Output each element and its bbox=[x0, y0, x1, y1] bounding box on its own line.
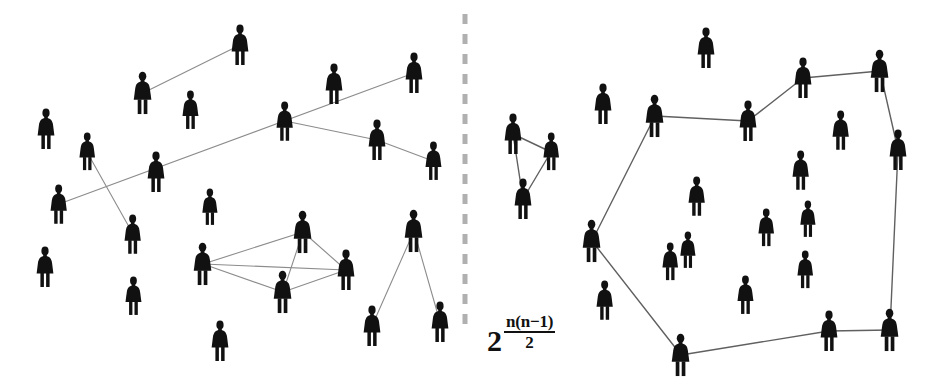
person-icon bbox=[594, 280, 615, 321]
formula-two-to-the-n-choose-two: 2 n(n−1) 2 bbox=[487, 313, 555, 351]
person-icon bbox=[792, 57, 814, 99]
person-icon bbox=[77, 132, 97, 171]
person-icon bbox=[361, 305, 383, 347]
person-icon bbox=[541, 132, 561, 171]
person-icon bbox=[512, 178, 534, 220]
person-icon bbox=[200, 188, 220, 226]
person-icon bbox=[868, 49, 891, 93]
person-icon bbox=[48, 184, 69, 225]
person-icon bbox=[145, 151, 167, 193]
formula-base: 2 bbox=[487, 326, 502, 356]
connection-edge bbox=[59, 73, 414, 204]
formula-denominator: 2 bbox=[523, 333, 536, 351]
person-icon bbox=[756, 208, 776, 247]
person-icon bbox=[592, 83, 614, 125]
person-icon bbox=[271, 270, 294, 314]
formula-fraction: n(n−1) 2 bbox=[504, 313, 555, 351]
person-icon bbox=[790, 150, 811, 191]
connection-edge bbox=[285, 121, 377, 140]
person-icon bbox=[678, 231, 698, 269]
left-panel-edges bbox=[59, 45, 440, 326]
person-icon bbox=[180, 90, 201, 130]
person-icon bbox=[335, 249, 357, 291]
person-icon bbox=[502, 113, 524, 155]
connection-edge bbox=[890, 150, 898, 330]
person-icon bbox=[686, 176, 707, 217]
person-icon bbox=[818, 310, 840, 352]
person-icon bbox=[366, 119, 388, 161]
connection-edge bbox=[681, 331, 829, 355]
person-icon bbox=[34, 246, 56, 288]
person-icon bbox=[131, 71, 154, 115]
formula-numerator: n(n−1) bbox=[504, 313, 555, 331]
person-icon bbox=[429, 301, 451, 343]
connection-edge bbox=[143, 45, 240, 93]
person-icon bbox=[795, 250, 815, 289]
person-icon bbox=[798, 200, 818, 238]
person-icon bbox=[580, 219, 603, 263]
person-icon bbox=[209, 320, 231, 362]
person-icon bbox=[423, 141, 444, 181]
person-icon bbox=[402, 209, 425, 253]
person-icon bbox=[191, 242, 214, 286]
person-icon bbox=[35, 108, 57, 150]
person-icon bbox=[274, 101, 295, 142]
person-icon bbox=[291, 210, 314, 254]
connection-edge bbox=[655, 116, 748, 121]
connection-edge bbox=[203, 232, 303, 264]
person-icon bbox=[229, 24, 251, 66]
person-icon bbox=[830, 110, 851, 151]
person-icon bbox=[669, 333, 692, 377]
person-icon bbox=[878, 308, 901, 352]
person-icon bbox=[323, 63, 345, 105]
person-icon bbox=[735, 275, 756, 315]
network-comparison-figure: 2 n(n−1) 2 bbox=[0, 0, 949, 389]
person-icon bbox=[737, 100, 759, 142]
person-icon bbox=[122, 214, 143, 255]
person-icon bbox=[403, 52, 425, 94]
person-icon bbox=[695, 27, 717, 69]
person-icon bbox=[887, 129, 909, 171]
person-icon bbox=[643, 94, 666, 138]
person-icon bbox=[123, 276, 144, 316]
